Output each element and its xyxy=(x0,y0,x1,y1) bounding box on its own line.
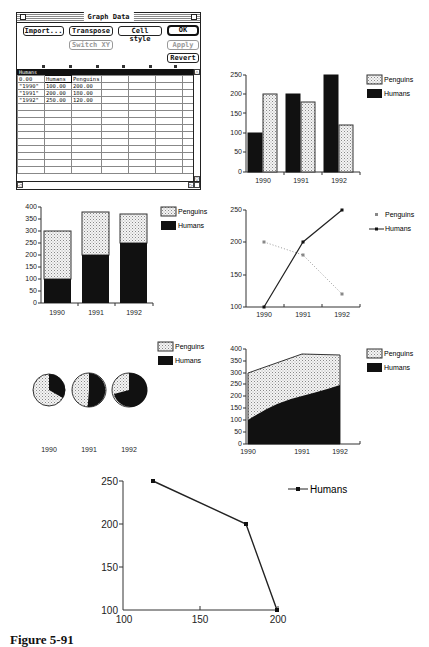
empty-cell[interactable] xyxy=(101,160,128,167)
scroll-up-arrow-icon[interactable]: △ xyxy=(194,69,200,75)
empty-cell[interactable] xyxy=(72,118,102,125)
empty-cell[interactable] xyxy=(18,167,45,174)
cell-humans[interactable]: 250.00 xyxy=(45,97,72,104)
cell-penguins[interactable]: 200.00 xyxy=(72,83,102,90)
empty-cell[interactable] xyxy=(128,153,155,160)
empty-cell[interactable] xyxy=(128,139,155,146)
empty-cell[interactable] xyxy=(45,139,72,146)
empty-cell[interactable] xyxy=(45,118,72,125)
empty-cell[interactable] xyxy=(18,104,45,111)
empty-cell[interactable] xyxy=(128,118,155,125)
legend-swatch-penguins xyxy=(367,349,382,358)
empty-cell[interactable] xyxy=(155,83,182,90)
empty-cell[interactable] xyxy=(155,111,182,118)
empty-cell[interactable] xyxy=(45,167,72,174)
empty-cell[interactable] xyxy=(155,90,182,97)
empty-cell[interactable] xyxy=(101,125,128,132)
row-label[interactable]: "1990" xyxy=(18,83,45,90)
header-cell-penguins[interactable]: Penguins xyxy=(72,76,102,83)
empty-cell[interactable] xyxy=(18,160,45,167)
empty-cell[interactable] xyxy=(45,111,72,118)
zoom-box-icon[interactable] xyxy=(191,14,197,20)
empty-cell[interactable] xyxy=(18,132,45,139)
empty-cell[interactable] xyxy=(45,153,72,160)
empty-cell[interactable] xyxy=(101,76,128,83)
empty-cell[interactable] xyxy=(155,97,182,104)
empty-cell[interactable] xyxy=(72,160,102,167)
empty-cell[interactable] xyxy=(155,125,182,132)
empty-cell[interactable] xyxy=(72,153,102,160)
empty-cell[interactable] xyxy=(18,125,45,132)
empty-cell[interactable] xyxy=(18,111,45,118)
empty-cell[interactable] xyxy=(101,118,128,125)
empty-cell[interactable] xyxy=(101,167,128,174)
empty-cell[interactable] xyxy=(128,97,155,104)
apply-button[interactable]: Apply xyxy=(167,40,199,50)
corner-cell[interactable]: 0.00 xyxy=(18,76,45,83)
empty-cell[interactable] xyxy=(72,167,102,174)
empty-cell[interactable] xyxy=(128,125,155,132)
empty-cell[interactable] xyxy=(72,146,102,153)
empty-cell[interactable] xyxy=(101,83,128,90)
cell-style-button[interactable]: Cell style xyxy=(118,26,162,36)
empty-cell[interactable] xyxy=(18,139,45,146)
empty-cell[interactable] xyxy=(155,139,182,146)
ok-button[interactable]: OK xyxy=(167,25,199,36)
header-cell-humans[interactable]: Humans xyxy=(45,76,72,83)
empty-cell[interactable] xyxy=(18,118,45,125)
empty-cell[interactable] xyxy=(155,104,182,111)
empty-cell[interactable] xyxy=(45,160,72,167)
empty-cell[interactable] xyxy=(18,153,45,160)
row-label[interactable]: "1992" xyxy=(18,97,45,104)
empty-cell[interactable] xyxy=(128,132,155,139)
empty-cell[interactable] xyxy=(18,146,45,153)
empty-cell[interactable] xyxy=(155,153,182,160)
empty-cell[interactable] xyxy=(128,83,155,90)
empty-cell[interactable] xyxy=(45,125,72,132)
vertical-scrollbar[interactable]: △ ▽ xyxy=(193,69,200,182)
empty-cell[interactable] xyxy=(101,132,128,139)
empty-cell[interactable] xyxy=(72,104,102,111)
empty-cell[interactable] xyxy=(72,125,102,132)
scroll-left-arrow-icon[interactable]: ◁ xyxy=(17,182,23,188)
empty-cell[interactable] xyxy=(128,76,155,83)
empty-cell[interactable] xyxy=(155,132,182,139)
empty-cell[interactable] xyxy=(155,76,182,83)
cell-humans[interactable]: 200.00 xyxy=(45,90,72,97)
empty-cell[interactable] xyxy=(101,90,128,97)
empty-cell[interactable] xyxy=(128,104,155,111)
empty-cell[interactable] xyxy=(45,104,72,111)
empty-cell[interactable] xyxy=(45,132,72,139)
cell-penguins[interactable]: 120.00 xyxy=(72,97,102,104)
switch-xy-button[interactable]: Switch XY xyxy=(69,40,113,50)
row-label[interactable]: "1991" xyxy=(18,90,45,97)
empty-cell[interactable] xyxy=(128,160,155,167)
empty-cell[interactable] xyxy=(101,111,128,118)
import-button[interactable]: Import... xyxy=(23,26,64,36)
empty-cell[interactable] xyxy=(128,167,155,174)
transpose-button[interactable]: Transpose xyxy=(69,26,113,36)
empty-cell[interactable] xyxy=(128,146,155,153)
empty-cell[interactable] xyxy=(101,146,128,153)
empty-cell[interactable] xyxy=(72,111,102,118)
empty-cell[interactable] xyxy=(155,167,182,174)
empty-cell[interactable] xyxy=(72,132,102,139)
empty-cell[interactable] xyxy=(101,139,128,146)
empty-cell[interactable] xyxy=(128,90,155,97)
empty-cell[interactable] xyxy=(101,153,128,160)
empty-cell[interactable] xyxy=(128,111,155,118)
empty-cell[interactable] xyxy=(101,104,128,111)
cell-humans[interactable]: 100.00 xyxy=(45,83,72,90)
empty-cell[interactable] xyxy=(101,97,128,104)
empty-cell[interactable] xyxy=(155,118,182,125)
dialog-titlebar[interactable]: Graph Data xyxy=(17,13,200,23)
cell-penguins[interactable]: 180.00 xyxy=(72,90,102,97)
revert-button[interactable]: Revert xyxy=(167,53,199,63)
horizontal-scrollbar[interactable]: ◁ ▷ xyxy=(17,181,200,189)
empty-cell[interactable] xyxy=(72,139,102,146)
close-box-icon[interactable] xyxy=(20,14,26,20)
empty-cell[interactable] xyxy=(45,146,72,153)
grow-box-icon[interactable] xyxy=(194,182,200,188)
empty-cell[interactable] xyxy=(155,146,182,153)
empty-cell[interactable] xyxy=(155,160,182,167)
